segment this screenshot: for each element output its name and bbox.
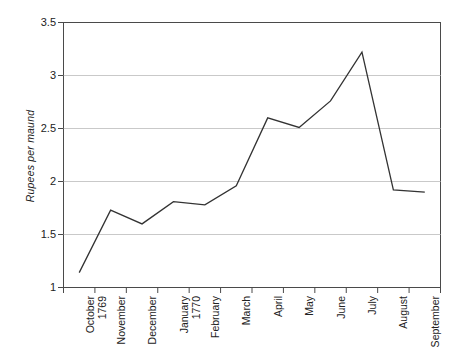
y-tick-label: 3 xyxy=(26,70,56,81)
plot-frame xyxy=(64,23,441,288)
y-axis-ticks xyxy=(58,23,64,288)
line-chart: Rupees per maund 3.5 3 2.5 2 1.5 1 xyxy=(0,0,461,351)
chart-canvas xyxy=(0,0,461,351)
y-tick-label: 1 xyxy=(26,282,56,293)
x-axis-ticks xyxy=(64,288,441,294)
y-tick-label: 2.5 xyxy=(26,123,56,134)
y-tick-label: 2 xyxy=(26,176,56,187)
y-tick-label: 3.5 xyxy=(26,17,56,28)
y-tick-label: 1.5 xyxy=(26,229,56,240)
y-axis-tick-labels: 3.5 3 2.5 2 1.5 1 xyxy=(24,0,56,351)
